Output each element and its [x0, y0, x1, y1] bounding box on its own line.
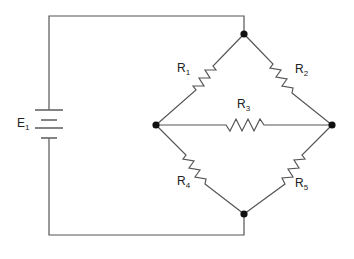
label-r5: R5 [295, 177, 308, 194]
node-top [240, 30, 247, 37]
label-e1: E1 [17, 117, 29, 134]
label-r2: R2 [295, 63, 308, 80]
label-r3: R3 [237, 98, 250, 115]
node-right [328, 121, 335, 128]
resistor-r4 [156, 125, 244, 214]
wire-top [49, 16, 244, 110]
battery-icon [35, 110, 63, 138]
resistor-r3 [156, 119, 332, 131]
node-bottom [240, 210, 247, 217]
resistor-r1 [156, 34, 244, 125]
node-left [152, 121, 159, 128]
label-r1: R1 [177, 62, 190, 79]
resistor-r2 [244, 34, 332, 125]
resistor-r5 [244, 125, 332, 214]
wire-bottom [49, 138, 244, 235]
circuit-diagram [0, 0, 354, 259]
label-r4: R4 [177, 175, 190, 192]
